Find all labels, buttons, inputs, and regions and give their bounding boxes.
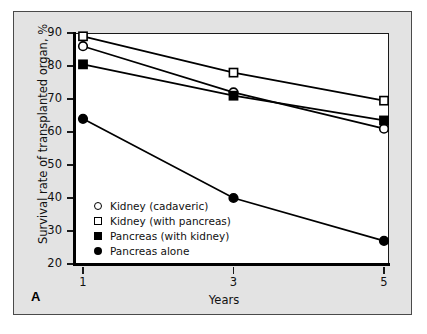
legend-marker-icon [91, 229, 105, 243]
legend-item[interactable]: Pancreas (with kidney) [91, 228, 231, 243]
data-point-marker [79, 60, 87, 68]
data-point-marker [380, 97, 388, 105]
data-point-marker [79, 115, 88, 124]
figure-panel: 9080706050403020 135 Survival rate of tr… [13, 11, 412, 315]
data-point-marker [79, 32, 87, 40]
x-axis-label: Years [174, 293, 274, 307]
data-point-marker [380, 124, 389, 133]
series-plot [14, 12, 413, 316]
legend-item[interactable]: Kidney (with pancreas) [91, 213, 231, 228]
legend: Kidney (cadaveric)Kidney (with pancreas)… [91, 198, 231, 258]
legend-item[interactable]: Pancreas alone [91, 243, 231, 258]
legend-item[interactable]: Kidney (cadaveric) [91, 198, 231, 213]
legend-label: Pancreas (with kidney) [110, 230, 229, 242]
data-point-marker [79, 42, 88, 51]
legend-marker-icon [91, 214, 105, 228]
data-point-marker [229, 69, 237, 77]
legend-label: Pancreas alone [110, 245, 189, 257]
legend-marker-icon [91, 199, 105, 213]
legend-label: Kidney (cadaveric) [110, 200, 208, 212]
legend-marker-icon [91, 244, 105, 258]
legend-label: Kidney (with pancreas) [110, 215, 231, 227]
data-point-marker [380, 237, 389, 246]
data-point-marker [229, 92, 237, 100]
y-axis-label: Survival rate of transplanted organ, % [36, 34, 50, 244]
panel-label: A [31, 289, 40, 304]
data-point-marker [380, 116, 388, 124]
